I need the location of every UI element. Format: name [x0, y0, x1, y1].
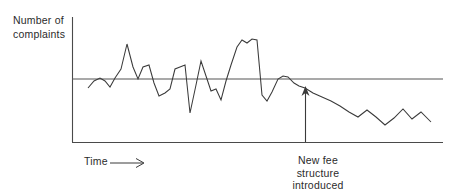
x-axis-label: Time — [84, 155, 108, 168]
complaints-series-line — [88, 39, 431, 125]
intervention-annotation-line-2: structure — [276, 167, 360, 180]
y-axis-label: Number of complaints — [13, 14, 75, 41]
intervention-annotation: New fee structure introduced — [276, 154, 360, 191]
intervention-annotation-line-1: New fee — [276, 154, 360, 167]
run-chart-figure: Number of complaints Time New fee struct… — [0, 0, 458, 191]
intervention-annotation-line-3: introduced — [276, 179, 360, 191]
